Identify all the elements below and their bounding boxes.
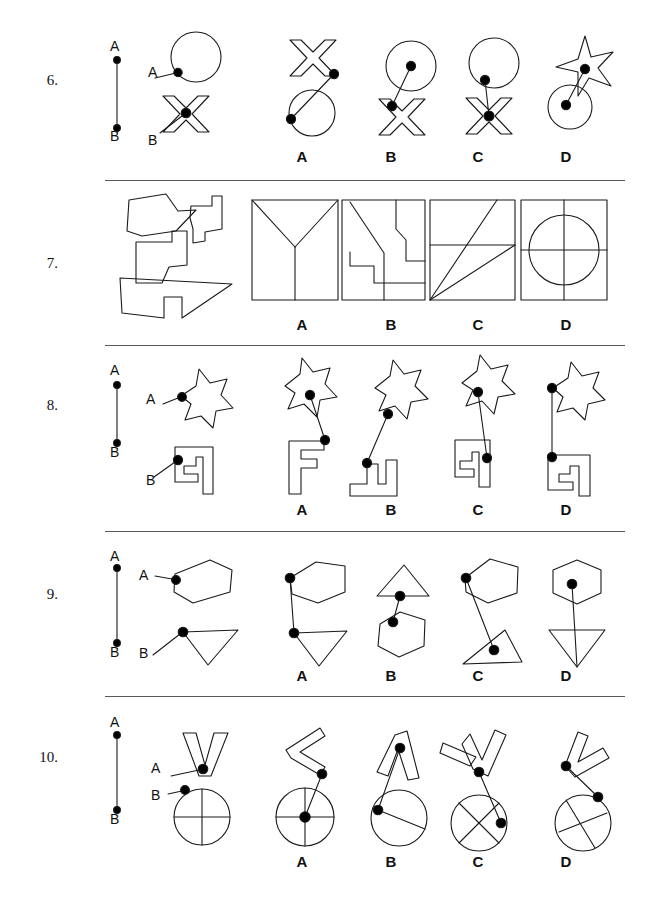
q8-prompt-star (181, 369, 233, 428)
q7-optD-square (521, 200, 607, 300)
q6-option-letter-a[interactable]: A (287, 148, 317, 165)
q10-optC-v-shape-2 (440, 743, 476, 766)
q10-prompt-leader-a (171, 770, 199, 776)
q9-optD-triangle (549, 630, 605, 667)
q8-optA-dot-bottom (320, 435, 329, 444)
q10-optB-link (378, 748, 400, 810)
q6-optC-x-shape (466, 98, 512, 134)
q6-optC-circle (469, 38, 519, 88)
q7-optA-line-2 (295, 200, 338, 247)
q8-prompt-leader-b (154, 462, 175, 477)
q9-optB-dot-bottom (388, 617, 398, 627)
q8-optC-star (462, 355, 515, 414)
q6-prompt-label-b: B (148, 132, 157, 148)
q9-prompt-dot-a (172, 576, 181, 585)
section-separator-3 (105, 531, 625, 532)
q10-ruler-label-b: B (110, 811, 119, 827)
q9-optB-hexagon (378, 612, 425, 657)
q6-option-letter-d[interactable]: D (551, 148, 581, 165)
q8-option-letter-b[interactable]: B (376, 501, 406, 518)
q7-option-letter-c[interactable]: C (463, 316, 493, 333)
q7-option-letter-d[interactable]: D (551, 316, 581, 333)
q6-optD-dot-top (580, 64, 589, 73)
section-separator-1 (105, 180, 625, 181)
q8-optB-link (367, 414, 388, 463)
q10-optC-link (479, 772, 501, 823)
q6-ruler-dot-a (114, 57, 121, 64)
q6-optB-dot-bottom (387, 101, 396, 110)
q8-optD-dot-bottom (547, 452, 556, 461)
q10-optA-link (305, 774, 322, 817)
q10-option-letter-a[interactable]: A (287, 853, 317, 870)
q8-option-letter-a[interactable]: A (287, 501, 317, 518)
q9-option-letter-a[interactable]: A (287, 667, 317, 684)
q10-optD-circle-line-1 (566, 800, 595, 848)
q8-optB-star (375, 360, 428, 419)
q8-optD-dot-top (547, 383, 556, 392)
q7-prompt-piece-1 (127, 194, 196, 236)
q7-optB-square (342, 200, 425, 300)
q6-prompt-leader-a (155, 73, 176, 78)
q10-prompt-circle (174, 789, 230, 845)
q10-optA-dot-top (317, 769, 327, 779)
q9-ruler-label-a: A (110, 548, 119, 564)
q10-ruler-label-a: A (110, 714, 119, 730)
q8-optA-star (285, 358, 337, 417)
q7-optC-line-1 (430, 200, 497, 300)
q8-prompt-dot-b (173, 455, 182, 464)
q7-optB-line-3 (396, 200, 425, 261)
q9-option-letter-d[interactable]: D (551, 667, 581, 684)
q8-prompt-label-b: B (146, 472, 155, 488)
q10-optA-v-shape (286, 728, 325, 775)
q9-ruler-dot-a (114, 565, 121, 572)
q8-optD-f-shape (548, 455, 590, 496)
q6-prompt-dot-b (181, 108, 191, 118)
q6-optD-star-shape (556, 36, 613, 96)
question-number-10: 10. (10, 749, 58, 766)
q10-optB-circle-chord (378, 810, 425, 829)
q10-option-letter-c[interactable]: C (463, 853, 493, 870)
q7-optD-circle (529, 215, 599, 285)
q10-optA-circle (276, 788, 334, 846)
q10-optA-dot-bottom (300, 812, 310, 822)
q6-optB-circle (386, 41, 436, 91)
q6-optC-link (485, 80, 489, 116)
q9-optC-dot-bottom (489, 645, 499, 655)
q6-option-letter-b[interactable]: B (376, 148, 406, 165)
q10-prompt-dot-b (181, 786, 190, 795)
q7-option-letter-a[interactable]: A (287, 316, 317, 333)
q9-optD-dot-top (567, 579, 577, 589)
q8-option-letter-c[interactable]: C (463, 501, 493, 518)
q6-optB-x-shape (379, 99, 425, 135)
q8-optC-dot-top (473, 387, 482, 396)
q8-prompt-label-a: A (146, 391, 155, 407)
q9-prompt-triangle (183, 630, 238, 665)
q7-prompt-piece-4 (120, 278, 232, 318)
q9-prompt-dot-b (178, 627, 188, 637)
q7-optB-line-2 (350, 252, 425, 283)
q8-option-letter-d[interactable]: D (551, 501, 581, 518)
q7-option-letter-b[interactable]: B (376, 316, 406, 333)
q6-optB-dot-top (406, 61, 415, 70)
q10-option-letter-d[interactable]: D (551, 853, 581, 870)
q10-optC-circle (451, 795, 507, 851)
q6-optA-x-shape (290, 40, 336, 76)
section-separator-4 (105, 696, 625, 697)
q10-optD-link (566, 766, 598, 797)
q9-optA-dot-top (285, 573, 295, 583)
q6-prompt-x-shape (163, 96, 209, 132)
q10-option-letter-b[interactable]: B (376, 853, 406, 870)
q7-prompt-piece-3 (136, 231, 187, 283)
q8-optA-f-shape (289, 441, 324, 494)
q6-optA-link (291, 74, 334, 119)
q6-option-letter-c[interactable]: C (463, 148, 493, 165)
q9-option-letter-b[interactable]: B (376, 667, 406, 684)
q10-prompt-v-shape (183, 733, 228, 776)
q9-optC-hexagon (465, 559, 518, 603)
q9-option-letter-c[interactable]: C (463, 667, 493, 684)
q9-prompt-leader-a (155, 576, 172, 579)
q6-prompt-leader-b (160, 116, 182, 133)
q8-optD-star (553, 362, 605, 420)
q7-optC-line-2 (430, 245, 515, 300)
q10-optC-circle-x1 (459, 803, 499, 843)
